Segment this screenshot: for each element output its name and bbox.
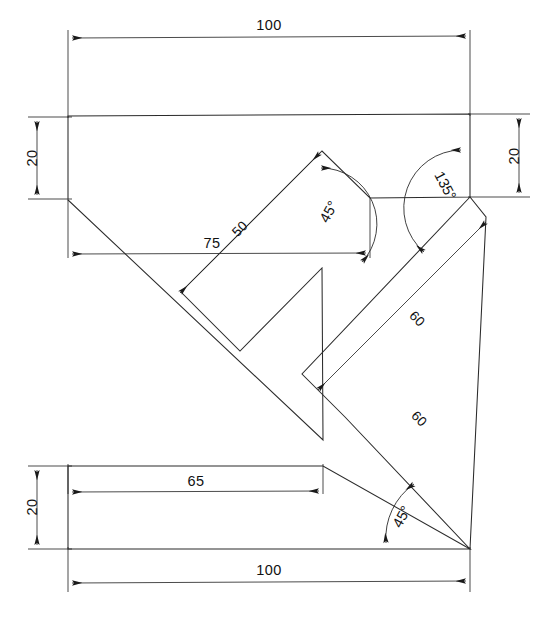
dim-label-bottom-20: 20 [24,499,40,516]
dim-label-65: 65 [188,473,205,489]
dim-label-75: 75 [204,235,221,251]
dim-bottom-100: 100 [68,547,470,592]
dim-line-bottom-100 [72,581,466,583]
dim-label-60-upper: 60 [406,308,428,330]
drawing-svg: 100 20 20 75 50 [0,0,558,627]
dim-65: 65 [68,464,323,494]
upper-bar-and-arm-outline [68,114,470,440]
part-lower-member [68,466,470,549]
dim-label-right-20: 20 [506,148,522,165]
dim-label-bottom-100: 100 [256,562,281,578]
dim-label-top-100: 100 [256,17,281,33]
dim-60-upper: 60 [318,222,486,390]
dim-left-20: 20 [24,117,72,199]
dim-line-top-100 [72,36,466,38]
dim-line-50 [180,153,320,293]
dim-bottom-20: 20 [24,466,72,549]
technical-drawing-canvas: 100 20 20 75 50 [0,0,558,627]
dim-60-lower: 60 [408,408,430,430]
dim-50: 50 [180,153,320,293]
dim-label-60-lower: 60 [408,408,430,430]
part-upper-member [68,114,470,440]
dim-45-upper: 45° [316,168,376,262]
dim-line-60-upper [318,222,486,390]
dim-top-100: 100 [68,17,470,118]
dim-45-lower: 45° [386,484,414,543]
dim-right-20: 20 [468,114,530,197]
lower-bar-outline [68,466,470,549]
dim-label-left-20: 20 [24,150,40,167]
dim-line-65 [72,491,319,492]
dim-label-50: 50 [229,218,251,240]
dim-label-45-upper: 45° [316,198,340,225]
dim-45-upper-value: 45° [316,198,340,225]
